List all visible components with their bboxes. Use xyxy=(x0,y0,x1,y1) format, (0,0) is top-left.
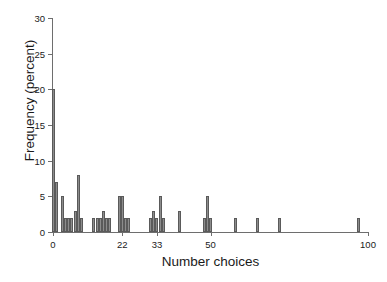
x-tick-mark-33 xyxy=(157,232,158,236)
x-tick-label-100: 100 xyxy=(360,239,376,250)
bar xyxy=(108,218,111,232)
x-tick-mark-50 xyxy=(211,232,212,236)
y-tick-label: 15 xyxy=(34,120,45,131)
y-tick-label: 5 xyxy=(40,191,45,202)
x-tick-mark-22 xyxy=(122,232,123,236)
x-tick-label-0: 0 xyxy=(50,239,55,250)
y-tick-mark xyxy=(48,232,52,233)
y-tick-label: 10 xyxy=(34,155,45,166)
bar xyxy=(55,182,58,232)
bar xyxy=(209,218,212,232)
bar xyxy=(162,218,165,232)
x-axis-title: Number choices xyxy=(53,254,368,269)
y-tick-mark xyxy=(48,18,52,19)
y-tick-label: 20 xyxy=(34,84,45,95)
y-tick-label: 25 xyxy=(34,48,45,59)
plot-area: 051015202530 0223350100 xyxy=(53,18,368,232)
cropped-caption-sliver xyxy=(0,0,387,7)
y-tick-mark xyxy=(48,54,52,55)
x-tick-label-33: 33 xyxy=(152,239,163,250)
bar xyxy=(278,218,281,232)
bar xyxy=(127,218,130,232)
y-tick-label: 30 xyxy=(34,13,45,24)
y-tick-label: 0 xyxy=(40,227,45,238)
bar xyxy=(178,211,181,232)
y-axis-title: Frequency (percent) xyxy=(22,6,37,196)
bar xyxy=(80,218,83,232)
bar xyxy=(256,218,259,232)
x-tick-mark-0 xyxy=(53,232,54,236)
x-tick-mark-100 xyxy=(368,232,369,236)
x-tick-label-50: 50 xyxy=(205,239,216,250)
x-tick-label-22: 22 xyxy=(117,239,128,250)
bar xyxy=(234,218,237,232)
histogram-figure: Frequency (percent) Number choices 05101… xyxy=(0,0,387,282)
bar xyxy=(357,218,360,232)
